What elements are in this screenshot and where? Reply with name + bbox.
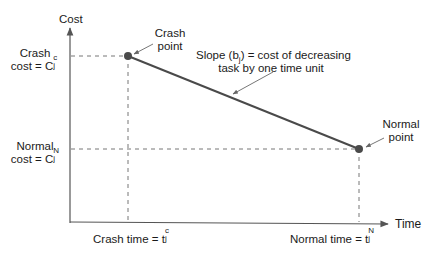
slope-note: Slope (bj) = cost of decreasing task by … — [196, 49, 346, 75]
normal-point-label: Normal point — [376, 118, 426, 144]
normal-point-marker — [355, 145, 363, 153]
crash-cost-prefix: cost = C — [11, 60, 54, 72]
crash-cost-sub: j — [53, 62, 55, 70]
normal-cost-prefix: cost = C — [11, 153, 54, 165]
crash-time-sub: j — [165, 235, 167, 243]
crash-cost-annotation: Crash cost = Ccj — [4, 47, 66, 73]
normal-cost-sub: j — [53, 155, 55, 163]
normal-cost-line2: cost = CNj — [4, 153, 66, 166]
crash-time-annotation: Crash time = tcj — [93, 233, 171, 246]
crash-point-label: Crash point — [148, 27, 192, 53]
slope-note-prefix: Slope (b — [196, 49, 239, 61]
normal-point-label-line1: Normal — [376, 118, 426, 131]
slope-note-line2: task by one time unit — [196, 62, 346, 75]
crash-time-prefix: Crash time = t — [93, 233, 165, 245]
slope-callout-arrow — [233, 72, 273, 94]
crash-cost-line2: cost = Ccj — [4, 60, 66, 73]
crash-point-label-line1: Crash — [148, 27, 192, 40]
normal-time-sub: j — [368, 235, 370, 243]
x-axis — [70, 222, 388, 224]
normal-time-annotation: Normal time = tNj — [290, 233, 374, 246]
slope-note-suffix: ) = cost of decreasing — [241, 49, 351, 61]
normal-point-label-line2: point — [376, 131, 426, 144]
normal-time-prefix: Normal time = t — [290, 233, 368, 245]
crash-point-marker — [124, 52, 132, 60]
crash-point-label-line2: point — [148, 40, 192, 53]
slope-note-line1: Slope (bj) = cost of decreasing — [196, 49, 346, 62]
time-cost-diagram — [0, 0, 439, 261]
x-axis-label: Time — [395, 218, 421, 231]
dashed-guides — [71, 56, 359, 222]
y-axis-label: Cost — [59, 13, 83, 26]
normal-cost-annotation: Normal cost = CNj — [4, 140, 66, 166]
